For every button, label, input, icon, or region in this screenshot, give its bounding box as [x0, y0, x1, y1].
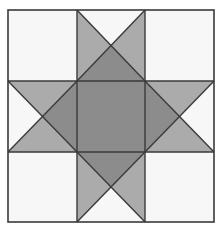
quilt-cells	[8, 10, 214, 222]
square-patch-white	[8, 152, 77, 222]
quilt-cell-r0-c2	[145, 10, 214, 81]
quilt-cell-r2-c0	[8, 152, 77, 222]
quilt-cell-r1-c1	[77, 81, 145, 152]
quilt-block-diagram	[0, 0, 219, 235]
quilt-cell-r0-c0	[8, 10, 77, 81]
quilt-cell-r2-c2	[145, 152, 214, 222]
square-patch-white	[145, 152, 214, 222]
square-patch-white	[8, 10, 77, 81]
square-patch-dark	[77, 81, 145, 152]
square-patch-white	[145, 10, 214, 81]
